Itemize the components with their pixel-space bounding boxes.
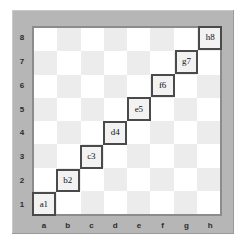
- board-square-g3[interactable]: [174, 144, 197, 167]
- file-label-f: f: [151, 216, 175, 234]
- board-square-c4[interactable]: [81, 121, 104, 144]
- file-label-d: d: [103, 216, 127, 234]
- file-label-h: h: [198, 216, 222, 234]
- board-square-e1[interactable]: [127, 191, 150, 214]
- board-square-c7[interactable]: [81, 51, 104, 74]
- diagonal-marker-e5[interactable]: e5: [127, 97, 151, 121]
- board-square-f1[interactable]: [150, 191, 173, 214]
- board-square-e4[interactable]: [127, 121, 150, 144]
- diagonal-marker-f6[interactable]: f6: [151, 74, 175, 98]
- board-square-g2[interactable]: [174, 168, 197, 191]
- board-square-b8[interactable]: [57, 28, 80, 51]
- board-square-e7[interactable]: [127, 51, 150, 74]
- board-square-f4[interactable]: [150, 121, 173, 144]
- chess-board-diagram: 87654321 abcdefgh a1b2c3d4e5f6g7h8: [0, 0, 246, 245]
- board-square-e3[interactable]: [127, 144, 150, 167]
- board-square-g4[interactable]: [174, 121, 197, 144]
- board-square-a8[interactable]: [34, 28, 57, 51]
- board-square-a4[interactable]: [34, 121, 57, 144]
- rank-label-6: 6: [12, 74, 32, 98]
- board-square-h2[interactable]: [197, 168, 220, 191]
- board-square-d6[interactable]: [104, 75, 127, 98]
- board-square-e2[interactable]: [127, 168, 150, 191]
- board-square-h5[interactable]: [197, 98, 220, 121]
- diagonal-marker-a1[interactable]: a1: [32, 192, 56, 216]
- board-square-e6[interactable]: [127, 75, 150, 98]
- board-square-d5[interactable]: [104, 98, 127, 121]
- board-square-c2[interactable]: [81, 168, 104, 191]
- board-square-h3[interactable]: [197, 144, 220, 167]
- file-label-b: b: [56, 216, 80, 234]
- board-square-c5[interactable]: [81, 98, 104, 121]
- board-square-b3[interactable]: [57, 144, 80, 167]
- board-square-h6[interactable]: [197, 75, 220, 98]
- rank-label-5: 5: [12, 97, 32, 121]
- board-square-d7[interactable]: [104, 51, 127, 74]
- board-square-d3[interactable]: [104, 144, 127, 167]
- file-label-a: a: [32, 216, 56, 234]
- file-label-row: abcdefgh: [32, 216, 222, 234]
- board-square-b7[interactable]: [57, 51, 80, 74]
- board-square-a3[interactable]: [34, 144, 57, 167]
- board-square-h7[interactable]: [197, 51, 220, 74]
- board-square-a7[interactable]: [34, 51, 57, 74]
- board-square-g1[interactable]: [174, 191, 197, 214]
- board-square-a2[interactable]: [34, 168, 57, 191]
- board-square-d8[interactable]: [104, 28, 127, 51]
- board-square-e8[interactable]: [127, 28, 150, 51]
- board-square-g5[interactable]: [174, 98, 197, 121]
- file-label-c: c: [80, 216, 104, 234]
- board-square-f8[interactable]: [150, 28, 173, 51]
- board-square-b5[interactable]: [57, 98, 80, 121]
- board-square-c1[interactable]: [81, 191, 104, 214]
- board-square-f2[interactable]: [150, 168, 173, 191]
- board-square-h4[interactable]: [197, 121, 220, 144]
- board-square-c6[interactable]: [81, 75, 104, 98]
- board-square-h1[interactable]: [197, 191, 220, 214]
- board-square-a6[interactable]: [34, 75, 57, 98]
- rank-label-8: 8: [12, 26, 32, 50]
- board-square-f5[interactable]: [150, 98, 173, 121]
- diagonal-marker-g7[interactable]: g7: [175, 50, 199, 74]
- board-square-b1[interactable]: [57, 191, 80, 214]
- file-label-g: g: [175, 216, 199, 234]
- board-square-f3[interactable]: [150, 144, 173, 167]
- rank-label-3: 3: [12, 145, 32, 169]
- rank-label-1: 1: [12, 192, 32, 216]
- board-square-f7[interactable]: [150, 51, 173, 74]
- board-square-g6[interactable]: [174, 75, 197, 98]
- diagonal-marker-c3[interactable]: c3: [80, 145, 104, 169]
- board-square-c8[interactable]: [81, 28, 104, 51]
- board-square-g8[interactable]: [174, 28, 197, 51]
- diagonal-marker-d4[interactable]: d4: [103, 121, 127, 145]
- diagonal-marker-h8[interactable]: h8: [198, 26, 222, 50]
- board-square-d2[interactable]: [104, 168, 127, 191]
- file-label-e: e: [127, 216, 151, 234]
- rank-label-7: 7: [12, 50, 32, 74]
- diagonal-marker-b2[interactable]: b2: [56, 169, 80, 193]
- rank-label-column: 87654321: [12, 26, 32, 216]
- rank-label-2: 2: [12, 169, 32, 193]
- board-square-a5[interactable]: [34, 98, 57, 121]
- board-square-d1[interactable]: [104, 191, 127, 214]
- board-square-b6[interactable]: [57, 75, 80, 98]
- rank-label-4: 4: [12, 121, 32, 145]
- board-square-b4[interactable]: [57, 121, 80, 144]
